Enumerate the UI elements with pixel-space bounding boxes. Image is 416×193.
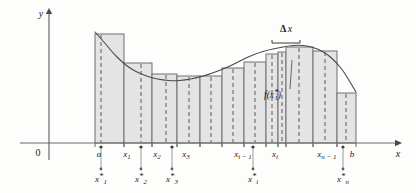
partition-label-x1: x1 (122, 149, 131, 161)
partition-label-xi-1: xi − 1 (233, 149, 252, 161)
riemann-rectangle (152, 74, 177, 143)
riemann-rectangle (95, 34, 124, 143)
origin-label: 0 (36, 147, 41, 158)
delta-x-label: Δx (280, 23, 293, 34)
y-axis-label: y (38, 8, 44, 19)
riemann-rectangle (244, 62, 266, 143)
x-axis-label: x (395, 148, 401, 159)
partition-label-b: b (350, 149, 355, 159)
axis-tick-marks (95, 143, 356, 147)
delta-x-bracket-path (272, 40, 300, 43)
partition-label-xn-1: xn − 1 (316, 149, 336, 161)
sample-label-x3star: x*3 (165, 171, 178, 186)
partition-label-x3: x3 (181, 149, 190, 161)
riemann-sum-figure: yx0ax1x2x3xi − 1xixn − 1bx*1x*2x*3x*ix*n… (0, 0, 416, 193)
sample-label-x1star: x*1 (94, 171, 107, 186)
riemann-rectangle (124, 63, 152, 143)
figure-canvas: yx0ax1x2x3xi − 1xixn − 1bx*1x*2x*3x*ix*n… (0, 0, 416, 193)
sample-label-xnstar: x*n (336, 171, 349, 186)
partition-label-x2: x2 (152, 149, 161, 161)
riemann-rectangles (95, 34, 356, 143)
partition-label-xi: xi (271, 149, 278, 161)
delta-x-bracket (272, 40, 300, 43)
sample-point-leader-lines (99, 145, 344, 170)
function-value-label: f(x*i) (264, 87, 281, 102)
sample-label-x2star: x*2 (134, 171, 147, 186)
sample-label-xistar: x*i (247, 171, 258, 186)
partition-label-a: a (97, 149, 102, 159)
y-axis-arrowhead (46, 8, 52, 14)
x-axis-arrowhead (395, 140, 402, 146)
